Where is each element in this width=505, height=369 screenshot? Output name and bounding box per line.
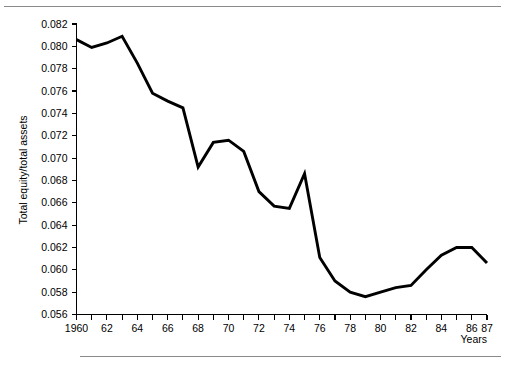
y-tick-label: 0.066 xyxy=(41,196,67,208)
y-tick-label: 0.072 xyxy=(41,129,67,141)
y-tick-label: 0.076 xyxy=(41,85,67,97)
x-tick-label: 66 xyxy=(162,322,174,334)
y-tick-label: 0.064 xyxy=(41,219,67,231)
x-tick-label: 74 xyxy=(284,322,296,334)
chart-figure: Total equity/total assets Years 0.0560.0… xyxy=(0,0,505,369)
x-tick-label: 86 xyxy=(466,322,478,334)
x-tick-label: 84 xyxy=(436,322,448,334)
x-tick-label: 62 xyxy=(101,322,113,334)
y-tick-label: 0.074 xyxy=(41,107,67,119)
y-tick-group: 0.0560.0580.0600.0620.0640.0660.0680.070… xyxy=(41,18,76,321)
x-tick-label: 76 xyxy=(314,322,326,334)
y-tick-label: 0.080 xyxy=(41,40,67,52)
y-tick-label: 0.070 xyxy=(41,152,67,164)
y-tick-label: 0.062 xyxy=(41,241,67,253)
x-tick-label: 80 xyxy=(375,322,387,334)
x-tick-label: 78 xyxy=(344,322,356,334)
x-tick-label: 70 xyxy=(223,322,235,334)
data-series-line xyxy=(77,36,488,296)
y-tick-label: 0.056 xyxy=(41,308,67,320)
x-tick-group: 19606264666870727476788082848687 xyxy=(65,315,493,334)
x-tick-label: 64 xyxy=(131,322,143,334)
y-tick-label: 0.060 xyxy=(41,263,67,275)
y-tick-label: 0.058 xyxy=(41,286,67,298)
y-tick-label: 0.082 xyxy=(41,18,67,30)
x-tick-label: 68 xyxy=(192,322,204,334)
y-tick-label: 0.068 xyxy=(41,174,67,186)
plot-area: 0.0560.0580.0600.0620.0640.0660.0680.070… xyxy=(0,0,505,369)
x-tick-label: 1960 xyxy=(65,322,89,334)
y-tick-label: 0.078 xyxy=(41,62,67,74)
x-tick-label: 87 xyxy=(481,322,493,334)
x-tick-label: 72 xyxy=(253,322,265,334)
x-tick-label: 82 xyxy=(405,322,417,334)
